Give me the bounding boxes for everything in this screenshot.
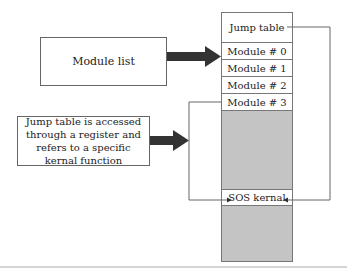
- jumptable-to-kernal-line: [287, 27, 330, 200]
- connectors: [0, 0, 347, 268]
- thick-arrow-icon: [167, 46, 221, 67]
- thick-arrow-icon: [150, 130, 189, 151]
- arrowhead-icon: [227, 198, 232, 203]
- module3-to-kernal-line: [189, 102, 227, 200]
- arrowhead-icon: [283, 198, 288, 203]
